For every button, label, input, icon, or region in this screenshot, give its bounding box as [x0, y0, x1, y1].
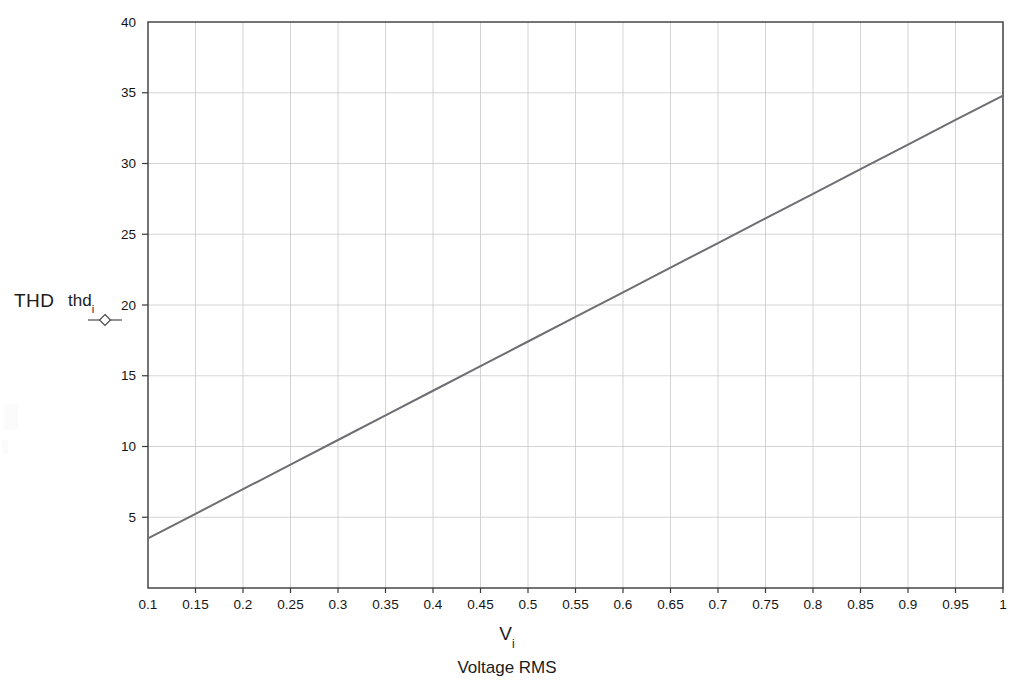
y-tick-label: 25	[121, 227, 136, 242]
y-tick-label: 30	[121, 156, 136, 171]
x-tick-label: 0.7	[709, 597, 728, 612]
y-axis-series-name: thd	[68, 291, 92, 310]
x-tick-label: 0.85	[847, 597, 873, 612]
x-tick-label: 0.95	[942, 597, 968, 612]
x-tick-label: 0.25	[277, 597, 303, 612]
x-tick-label: 0.4	[424, 597, 443, 612]
y-axis-series-label: thdi	[68, 291, 94, 312]
y-tick-label: 35	[121, 85, 136, 100]
plot-area: 5101520253035400.10.150.20.250.30.350.40…	[0, 0, 1014, 690]
y-tick-label: 10	[121, 439, 136, 454]
x-tick-label: 0.45	[467, 597, 493, 612]
y-axis-label-block: THD thdi	[10, 288, 142, 338]
x-axis-symbol: Vi	[0, 622, 1014, 653]
x-axis-symbol-subscript: i	[512, 637, 515, 651]
y-tick-label: 15	[121, 368, 136, 383]
chart-figure: 5101520253035400.10.150.20.250.30.350.40…	[0, 0, 1014, 690]
x-tick-label: 0.2	[234, 597, 253, 612]
x-axis-symbol-name: V	[499, 623, 512, 644]
y-axis-title: THD	[14, 290, 55, 312]
x-tick-label: 0.15	[182, 597, 208, 612]
x-tick-label: 1	[999, 597, 1007, 612]
diamond-line-marker-icon	[88, 312, 122, 328]
x-tick-label: 0.5	[519, 597, 538, 612]
x-tick-label: 0.1	[139, 597, 158, 612]
x-axis-description: Voltage RMS	[0, 655, 1014, 681]
x-tick-label: 0.6	[614, 597, 633, 612]
x-axis-label-block: Vi Voltage RMS	[0, 622, 1014, 681]
y-tick-label: 5	[128, 510, 136, 525]
x-tick-label: 0.8	[804, 597, 823, 612]
x-tick-label: 0.55	[562, 597, 588, 612]
y-tick-label: 40	[121, 15, 136, 30]
x-tick-label: 0.65	[657, 597, 683, 612]
x-tick-label: 0.75	[752, 597, 778, 612]
x-tick-label: 0.35	[372, 597, 398, 612]
x-tick-label: 0.3	[329, 597, 348, 612]
x-tick-label: 0.9	[899, 597, 918, 612]
